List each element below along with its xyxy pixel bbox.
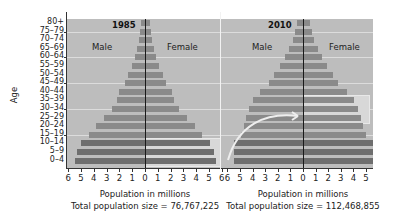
y-tick	[64, 57, 67, 58]
y-tick	[64, 83, 67, 84]
cohort-arrow-icon	[0, 0, 400, 222]
y-tick	[64, 135, 67, 136]
y-tick	[64, 32, 67, 33]
y-tick	[64, 109, 67, 110]
